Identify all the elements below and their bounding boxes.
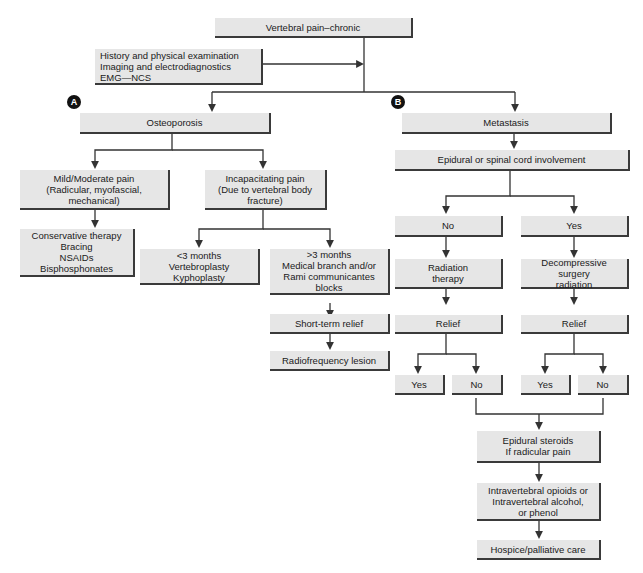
- no-node: No: [395, 216, 503, 237]
- decompressive-surgery-node: Decompressive surgery radiation: [521, 259, 629, 289]
- epidural-steroids-node: Epidural steroids If radicular pain: [477, 431, 601, 463]
- conservative-therapy-node: Conservative therapy Bracing NSAIDs Bisp…: [20, 229, 135, 277]
- workup-node: History and physical examination Imaging…: [95, 49, 263, 85]
- badge-a: A: [67, 95, 81, 109]
- relief1-no-node: No: [452, 375, 503, 395]
- short-term-relief-node: Short-term relief: [270, 314, 390, 334]
- relief2-no-node: No: [578, 375, 629, 395]
- relief2-yes-node: Yes: [521, 375, 571, 395]
- lt3-months-node: <3 months Vertebroplasty Kyphoplasty: [140, 249, 260, 285]
- radiofrequency-node: Radiofrequency lesion: [270, 351, 390, 371]
- root-node: Vertebral pain–chronic: [215, 18, 413, 38]
- relief1-yes-node: Yes: [395, 375, 445, 395]
- epidural-involvement-node: Epidural or spinal cord involvement: [395, 150, 630, 171]
- intravertebral-node: Intravertebral opioids or Intravertebral…: [477, 483, 601, 521]
- radiation-therapy-node: Radiation therapy: [395, 259, 503, 289]
- badge-b: B: [391, 95, 405, 109]
- gt3-months-node: >3 months Medical branch and/or Rami com…: [270, 249, 390, 295]
- relief-node-1: Relief: [395, 315, 503, 334]
- incapacitating-pain-node: Incapacitating pain (Due to vertebral bo…: [205, 170, 327, 210]
- metastasis-node: Metastasis: [402, 113, 612, 134]
- mild-pain-node: Mild/Moderate pain (Radicular, myofascia…: [20, 170, 170, 210]
- relief-node-2: Relief: [521, 315, 629, 334]
- osteoporosis-node: Osteoporosis: [80, 113, 271, 134]
- hospice-node: Hospice/palliative care: [477, 540, 601, 560]
- yes-node: Yes: [521, 216, 629, 237]
